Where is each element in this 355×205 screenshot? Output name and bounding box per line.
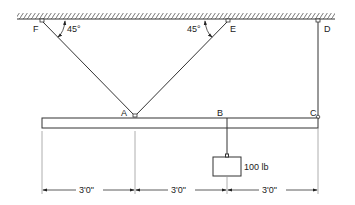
- label-e: E: [230, 24, 236, 34]
- label-a: A: [121, 108, 127, 118]
- pin-f: [40, 19, 44, 22]
- pin-a: [133, 114, 137, 117]
- label-c: C: [310, 108, 317, 118]
- ceiling: [17, 13, 335, 19]
- label-f: F: [33, 24, 39, 34]
- pins: [40, 19, 320, 119]
- truss-diagram: F E D A B C 45° 45° 100 lb 3'0" 3'0" 3'0…: [0, 0, 355, 205]
- pin-d: [316, 19, 320, 22]
- label-d: D: [324, 24, 331, 34]
- cable-ea: [135, 21, 228, 116]
- dimension-1: 3'0": [79, 185, 94, 195]
- dimension-3: 3'0": [262, 185, 277, 195]
- cables: [42, 21, 318, 116]
- beam: [42, 118, 318, 128]
- angle-left: 45°: [67, 24, 81, 34]
- cable-fa: [42, 21, 135, 116]
- label-b: B: [217, 108, 223, 118]
- load-label: 100 lb: [244, 162, 269, 172]
- dimension-2: 3'0": [171, 185, 186, 195]
- pin-e: [226, 19, 230, 22]
- angle-right: 45°: [187, 24, 201, 34]
